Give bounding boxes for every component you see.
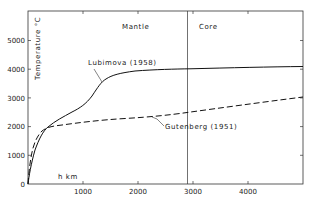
annotation-gutenberg: Gutenberg (1951): [165, 123, 237, 131]
region-label-mantle: Mantle: [122, 23, 149, 31]
x-tick-4000: 4000: [239, 188, 257, 196]
x-tick-1000: 1000: [74, 188, 92, 196]
annotation-gutenberg-arrow: [152, 117, 164, 126]
y-tick-labels: 0 1000 2000 3000 4000 5000: [7, 37, 25, 189]
annotation-lubimova-arrow: [94, 69, 102, 82]
annotation-lubimova: Lubimova (1958): [88, 59, 157, 67]
region-label-core: Core: [199, 23, 218, 31]
y-tick-1000: 1000: [7, 152, 25, 160]
series-gutenberg-line: [28, 97, 303, 184]
y-tick-4000: 4000: [7, 66, 25, 74]
y-tick-2000: 2000: [7, 123, 25, 131]
x-axis-ticks: [83, 11, 248, 184]
x-tick-labels: 1000 2000 3000 4000: [74, 188, 257, 196]
x-tick-3000: 3000: [184, 188, 202, 196]
y-tick-0: 0: [21, 181, 25, 189]
y-tick-3000: 3000: [7, 95, 25, 103]
y-tick-5000: 5000: [7, 37, 25, 45]
y-axis-title: Temperature °C: [34, 17, 42, 81]
temperature-depth-chart: 0 1000 2000 3000 4000 5000 1000 2000 300…: [0, 0, 317, 206]
x-axis-title: h km: [58, 173, 78, 181]
y-axis-ticks: [28, 41, 303, 156]
x-tick-2000: 2000: [129, 188, 147, 196]
plot-frame: [28, 11, 303, 184]
